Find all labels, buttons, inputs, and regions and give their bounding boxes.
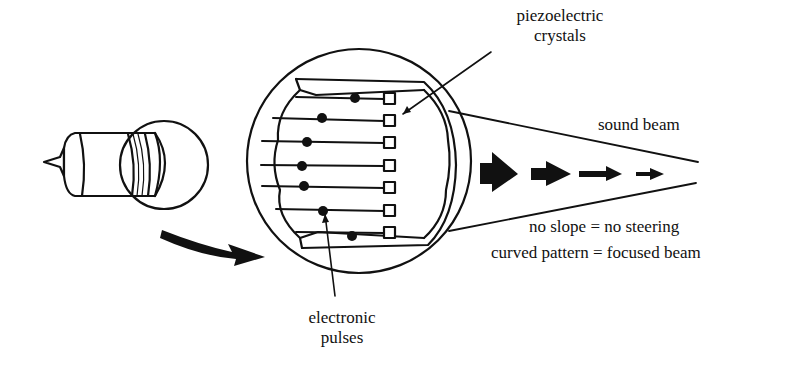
curved-arrow-icon [160,230,265,266]
piezo-label: piezoelectric crystals [500,6,620,46]
diagram-canvas [0,0,809,378]
piezo-leader-line [403,52,491,114]
focus-caption: curved pattern = focused beam [491,243,701,263]
pulses-label-line2: pulses [300,328,384,348]
pulses-leader-line [325,214,335,296]
pulse-dots [297,93,360,241]
beam-arrows-icon [480,152,664,192]
magnify-circle-large [247,49,471,273]
piezo-label-line2: crystals [500,26,620,46]
piezoelectric-crystals [384,93,395,238]
piezo-label-line1: piezoelectric [500,6,620,26]
pulses-label: electronic pulses [300,308,384,348]
pulses-label-line1: electronic [300,308,384,328]
transducer-probe-icon [44,133,165,196]
sound-beam-label: sound beam [598,115,680,135]
steering-caption: no slope = no steering [529,217,679,237]
